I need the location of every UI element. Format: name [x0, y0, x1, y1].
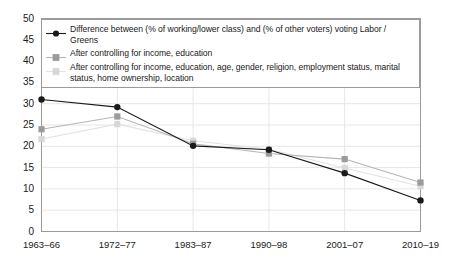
legend-label-2: After controlling for income, education,… [70, 62, 414, 83]
x-tick-1: 1972–77 [82, 240, 152, 250]
data-point-s2-1 [114, 121, 120, 127]
x-tick-0: 1963–66 [7, 240, 77, 250]
data-point-s1-0 [38, 126, 44, 132]
legend-label-0: Difference between (% of working/lower c… [70, 24, 414, 45]
data-point-s2-0 [38, 136, 44, 142]
y-tick-50: 50 [6, 14, 34, 24]
series-line-2 [42, 124, 421, 186]
data-point-s0-0 [38, 96, 44, 102]
legend-item-1: After controlling for income, education [46, 48, 414, 60]
x-tick-2: 1983–87 [158, 240, 228, 250]
y-tick-20: 20 [6, 141, 34, 151]
series-line-0 [42, 99, 421, 200]
data-point-s1-1 [114, 113, 120, 119]
y-tick-0: 0 [6, 227, 34, 237]
data-series-group [38, 96, 423, 203]
legend-item-2: After controlling for income, education,… [46, 62, 414, 83]
y-tick-40: 40 [6, 56, 34, 66]
data-point-s0-2 [190, 143, 196, 149]
y-tick-5: 5 [6, 205, 34, 215]
y-tick-35: 35 [6, 77, 34, 87]
y-tick-45: 45 [6, 35, 34, 45]
legend-marker-square-gray-icon [46, 49, 66, 60]
y-tick-15: 15 [6, 163, 34, 173]
y-tick-25: 25 [6, 120, 34, 130]
data-point-s1-4 [342, 156, 348, 162]
data-point-s0-1 [114, 104, 120, 110]
chart-container: 50454035302520151050 1963–661972–771983–… [0, 0, 461, 265]
data-point-s0-4 [342, 170, 348, 176]
data-point-s0-3 [266, 147, 272, 153]
legend-item-0: Difference between (% of working/lower c… [46, 24, 414, 45]
legend-marker-circle-icon [46, 25, 66, 36]
y-tick-10: 10 [6, 184, 34, 194]
data-point-s1-5 [417, 179, 423, 185]
y-tick-30: 30 [6, 99, 34, 109]
chart-legend: Difference between (% of working/lower c… [41, 19, 420, 88]
legend-marker-square-light-icon [46, 63, 66, 74]
legend-label-1: After controlling for income, education [70, 48, 212, 59]
data-point-s0-5 [417, 197, 423, 203]
x-tick-3: 1990–98 [234, 240, 304, 250]
x-tick-4: 2001–07 [310, 240, 380, 250]
x-tick-5: 2010–19 [386, 240, 456, 250]
